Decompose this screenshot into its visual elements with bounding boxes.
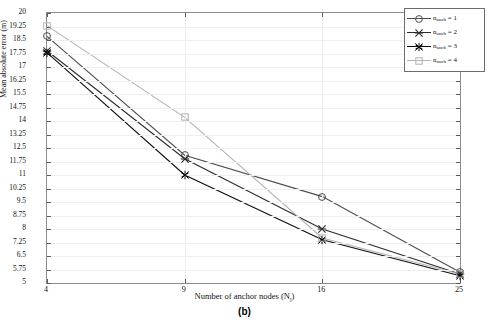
data-point-marker-circle <box>42 31 53 42</box>
y-tick-label: 9.5 <box>0 197 26 205</box>
legend-line-sample <box>407 14 431 24</box>
y-tick-mark <box>47 270 51 271</box>
y-tick-mark <box>47 175 51 176</box>
y-tick-mark <box>47 94 51 95</box>
y-tick-label: 20 <box>0 8 26 16</box>
x-tick-mark <box>322 13 323 17</box>
legend-item-1[interactable]: nanch = 1 <box>407 12 482 26</box>
y-tick-mark <box>47 216 51 217</box>
figure-panel-b: 55.756.57.2588.759.510.251111.7512.513.2… <box>0 0 489 322</box>
gridline-horizontal <box>47 162 460 163</box>
y-tick-label: 5 <box>0 278 26 286</box>
y-tick-mark <box>47 243 51 244</box>
legend-line-sample <box>407 42 431 52</box>
gridline-horizontal <box>47 189 460 190</box>
legend-label-value: = 3 <box>446 42 457 50</box>
gridline-horizontal <box>47 54 460 55</box>
y-tick-mark <box>456 216 460 217</box>
y-tick-label: 14 <box>0 116 26 124</box>
data-point-marker-circle <box>317 191 328 202</box>
y-tick-mark <box>47 202 51 203</box>
gridline-horizontal <box>47 94 460 95</box>
y-tick-mark <box>47 162 51 163</box>
legend-item-4[interactable]: nanch = 4 <box>407 54 482 68</box>
legend-label-subscript: anch <box>437 45 446 50</box>
legend-label-subscript: anch <box>437 59 446 64</box>
y-tick-mark <box>47 283 51 284</box>
legend-marker-circle <box>414 13 425 24</box>
legend-label: nanch = 3 <box>433 42 457 52</box>
legend-label-value: = 4 <box>446 56 457 64</box>
y-tick-label: 13.25 <box>0 130 26 138</box>
y-tick-label: 10.25 <box>0 184 26 192</box>
y-tick-mark <box>456 148 460 149</box>
y-tick-mark <box>47 121 51 122</box>
legend-marker-asterisk <box>414 27 425 38</box>
data-point-marker-star <box>42 47 53 58</box>
y-tick-mark <box>47 135 51 136</box>
series-line-1 <box>47 36 460 272</box>
x-tick-mark <box>322 279 323 283</box>
gridline-horizontal <box>47 270 460 271</box>
legend-item-2[interactable]: nanch = 2 <box>407 26 482 40</box>
y-tick-mark <box>456 162 460 163</box>
y-tick-mark <box>47 256 51 257</box>
gridline-horizontal <box>47 135 460 136</box>
y-tick-label: 11.75 <box>0 157 26 165</box>
y-tick-label: 11 <box>0 170 26 178</box>
y-tick-label: 5.75 <box>0 265 26 273</box>
gridline-horizontal <box>47 202 460 203</box>
gridline-horizontal <box>47 216 460 217</box>
gridline-horizontal <box>47 108 460 109</box>
y-tick-mark <box>47 108 51 109</box>
x-tick-mark <box>47 279 48 283</box>
legend-label: nanch = 2 <box>433 28 457 38</box>
y-tick-mark <box>456 175 460 176</box>
y-tick-mark <box>47 148 51 149</box>
legend-label-subscript: anch <box>437 31 446 36</box>
y-tick-label: 14.75 <box>0 103 26 111</box>
legend-label: nanch = 4 <box>433 56 457 66</box>
y-tick-label: 8.75 <box>0 211 26 219</box>
x-axis-label: Number of anchor nodes (Nl) <box>0 291 489 303</box>
y-tick-mark <box>47 229 51 230</box>
series-line-4 <box>47 26 460 274</box>
gridline-horizontal <box>47 256 460 257</box>
x-tick-mark <box>47 13 48 17</box>
gridline-horizontal <box>47 67 460 68</box>
x-axis-label-close: ) <box>292 291 295 301</box>
y-axis-label-text: Mean absolute error (m) <box>0 20 8 98</box>
data-point-marker-square <box>317 233 328 244</box>
legend-line-sample <box>407 28 431 38</box>
gridline-horizontal <box>47 148 460 149</box>
y-tick-mark <box>456 121 460 122</box>
y-tick-mark <box>456 135 460 136</box>
gridline-vertical <box>185 13 186 283</box>
y-tick-mark <box>456 202 460 203</box>
gridline-horizontal <box>47 81 460 82</box>
y-tick-label: 8 <box>0 224 26 232</box>
y-tick-mark <box>47 81 51 82</box>
gridline-horizontal <box>47 27 460 28</box>
y-tick-mark <box>456 81 460 82</box>
y-tick-mark <box>47 189 51 190</box>
gridline-horizontal <box>47 175 460 176</box>
legend-label-subscript: anch <box>437 17 446 22</box>
panel-label: (b) <box>0 306 489 317</box>
y-tick-mark <box>47 67 51 68</box>
legend-marker-star <box>414 41 425 52</box>
gridline-horizontal <box>47 121 460 122</box>
y-tick-mark <box>456 243 460 244</box>
gridline-horizontal <box>47 229 460 230</box>
y-tick-mark <box>456 229 460 230</box>
legend-line-sample <box>407 56 431 66</box>
y-tick-mark <box>456 256 460 257</box>
gridline-horizontal <box>47 40 460 41</box>
legend-item-3[interactable]: nanch = 3 <box>407 40 482 54</box>
data-point-marker-square <box>179 112 190 123</box>
legend-label-value: = 1 <box>446 14 457 22</box>
y-tick-label: 12.5 <box>0 143 26 151</box>
y-tick-mark <box>456 189 460 190</box>
data-point-marker-star <box>179 170 190 181</box>
data-point-marker-square <box>455 269 466 280</box>
